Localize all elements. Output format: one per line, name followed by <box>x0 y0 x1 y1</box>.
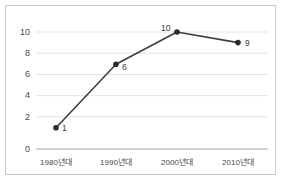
y-tick-label-6: 6 <box>14 69 30 79</box>
x-tick-label-2010s: 2010년대 <box>208 158 268 168</box>
y-tick-label-0: 0 <box>14 144 30 154</box>
data-label-1990s: 6 <box>122 63 127 72</box>
x-tick-label-2000s: 2000년대 <box>147 158 207 168</box>
line-chart-plot <box>6 6 275 174</box>
data-markers <box>53 29 241 130</box>
y-tick-label-8: 8 <box>14 48 30 58</box>
y-tick-label-4: 4 <box>14 90 30 100</box>
y-tick-label-2: 2 <box>14 112 30 122</box>
data-line <box>56 32 238 128</box>
y-tick-label-10: 10 <box>14 27 30 37</box>
x-tick-label-1990s: 1990년대 <box>86 158 146 168</box>
chart-frame: 10 8 6 4 2 0 1980년대 1990년대 2000년대 2010년대… <box>5 5 276 175</box>
data-label-1980s: 1 <box>62 124 67 133</box>
data-label-2010s: 9 <box>245 39 250 48</box>
x-tick-label-1980s: 1980년대 <box>26 158 86 168</box>
data-label-2000s: 10 <box>161 24 170 33</box>
